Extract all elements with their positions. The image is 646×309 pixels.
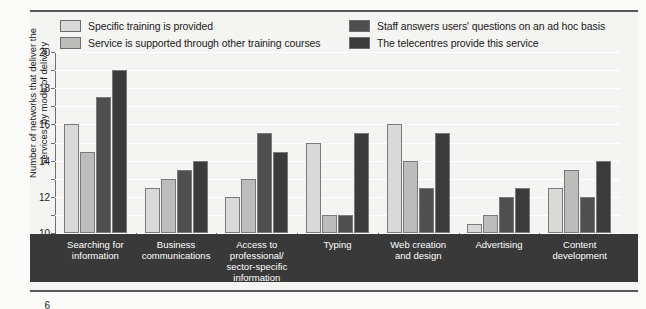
bar-group bbox=[55, 52, 136, 233]
plot-area: 02468101214161820 bbox=[55, 52, 620, 233]
bar[interactable] bbox=[225, 197, 240, 233]
bar[interactable] bbox=[483, 215, 498, 233]
bar[interactable] bbox=[145, 188, 160, 233]
bar[interactable] bbox=[112, 70, 127, 233]
x-axis-category-label: Businesscommunications bbox=[136, 234, 217, 282]
y-axis-tick-label: 20 bbox=[39, 47, 50, 58]
y-axis-tick-label: 14 bbox=[39, 155, 50, 166]
x-axis-category-line: information bbox=[55, 250, 136, 261]
bar-group bbox=[539, 52, 620, 233]
bar[interactable] bbox=[564, 170, 579, 233]
legend-swatch bbox=[349, 20, 370, 32]
legend-swatch bbox=[349, 37, 370, 49]
x-axis-category-label: Advertising bbox=[459, 234, 540, 282]
bar[interactable] bbox=[548, 188, 563, 233]
bar[interactable] bbox=[338, 215, 353, 233]
bar-group bbox=[459, 52, 540, 233]
bar[interactable] bbox=[64, 124, 79, 233]
bar-group bbox=[297, 52, 378, 233]
x-axis-category-label: Contentdevelopment bbox=[539, 234, 620, 282]
x-axis-category-line: professional/ bbox=[216, 250, 297, 261]
x-axis-category-line: Typing bbox=[297, 239, 378, 250]
bar[interactable] bbox=[499, 197, 514, 233]
bar[interactable] bbox=[435, 133, 450, 233]
bar[interactable] bbox=[419, 188, 434, 233]
bar[interactable] bbox=[403, 161, 418, 233]
bar[interactable] bbox=[161, 179, 176, 233]
bar[interactable] bbox=[241, 179, 256, 233]
legend-item[interactable]: The telecentres provide this service bbox=[349, 35, 638, 50]
bar[interactable] bbox=[467, 224, 482, 233]
bar-group bbox=[136, 52, 217, 233]
legend-item[interactable]: Staff answers users' questions on an ad … bbox=[349, 18, 638, 33]
bar[interactable] bbox=[80, 152, 95, 233]
legend-column: Specific training is providedService is … bbox=[60, 18, 349, 52]
x-axis-category-line: and design bbox=[378, 250, 459, 261]
legend-label: Staff answers users' questions on an ad … bbox=[377, 20, 605, 32]
y-axis-label: Number of networks that deliver the serv… bbox=[27, 8, 49, 198]
legend-swatch bbox=[60, 20, 81, 32]
x-axis-categories: Searching forinformationBusinesscommunic… bbox=[55, 234, 620, 282]
legend-item[interactable]: Service is supported through other train… bbox=[60, 35, 349, 50]
figure-bottom-rule bbox=[30, 290, 638, 292]
bar-group bbox=[378, 52, 459, 233]
legend-item[interactable]: Specific training is provided bbox=[60, 18, 349, 33]
y-axis-tick-label: 6 bbox=[44, 300, 50, 309]
x-axis-category-line: Advertising bbox=[459, 239, 540, 250]
bar[interactable] bbox=[322, 215, 337, 233]
legend-label: Specific training is provided bbox=[88, 20, 213, 32]
legend-label: The telecentres provide this service bbox=[377, 37, 539, 49]
x-axis-category-line: Searching for bbox=[55, 239, 136, 250]
y-axis-tick-label: 12 bbox=[39, 191, 50, 202]
x-axis-category-label: Typing bbox=[297, 234, 378, 282]
bar[interactable] bbox=[515, 188, 530, 233]
bar[interactable] bbox=[257, 133, 272, 233]
x-axis-category-label: Access toprofessional/sector-specificinf… bbox=[216, 234, 297, 282]
y-axis-tick-label: 16 bbox=[39, 119, 50, 130]
x-axis-category-line: development bbox=[539, 250, 620, 261]
bar[interactable] bbox=[596, 161, 611, 233]
bar[interactable] bbox=[387, 124, 402, 233]
legend-label: Service is supported through other train… bbox=[88, 37, 320, 49]
x-axis-category-line: communications bbox=[136, 250, 217, 261]
x-axis-category-line: Access to bbox=[216, 239, 297, 250]
x-axis-category-line: Business bbox=[136, 239, 217, 250]
x-axis-category-line: information bbox=[216, 272, 297, 283]
bar[interactable] bbox=[306, 143, 321, 234]
chart-legend: Specific training is providedService is … bbox=[60, 18, 638, 52]
x-axis-category-line: Content bbox=[539, 239, 620, 250]
bar[interactable] bbox=[177, 170, 192, 233]
legend-swatch bbox=[60, 37, 81, 49]
x-axis-category-label: Web creationand design bbox=[378, 234, 459, 282]
bar[interactable] bbox=[193, 161, 208, 233]
x-axis-category-line: sector-specific bbox=[216, 261, 297, 272]
chart-figure: Specific training is providedService is … bbox=[0, 0, 646, 309]
x-axis-band: Searching forinformationBusinesscommunic… bbox=[30, 234, 638, 282]
bar-group bbox=[216, 52, 297, 233]
bar[interactable] bbox=[96, 97, 111, 233]
legend-column: Staff answers users' questions on an ad … bbox=[349, 18, 638, 52]
y-axis-tick-label: 18 bbox=[39, 83, 50, 94]
x-axis-category-label: Searching forinformation bbox=[55, 234, 136, 282]
bar-groups bbox=[55, 52, 620, 233]
bar[interactable] bbox=[273, 152, 288, 233]
x-axis-category-line: Web creation bbox=[378, 239, 459, 250]
bar[interactable] bbox=[580, 197, 595, 233]
bar[interactable] bbox=[354, 133, 369, 233]
